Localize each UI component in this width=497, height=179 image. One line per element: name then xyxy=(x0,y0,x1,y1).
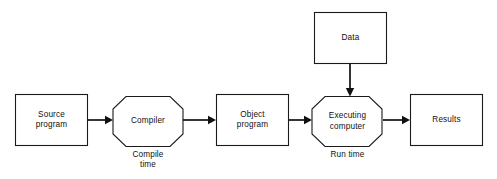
node-source-program xyxy=(16,95,88,146)
phase-label-compile-time: Compile time xyxy=(113,150,183,171)
edge-object-program-to-executing-computer xyxy=(289,116,312,124)
node-data xyxy=(315,13,387,64)
diagram-canvas xyxy=(0,0,497,179)
node-executing-computer xyxy=(312,97,382,147)
edge-source-to-compiler xyxy=(88,116,113,124)
node-results xyxy=(411,95,483,146)
edge-executing-computer-to-results xyxy=(383,116,410,124)
edge-data-to-executing-computer xyxy=(346,64,354,97)
node-object-program xyxy=(217,95,289,146)
phase-label-run-time: Run time xyxy=(312,150,383,160)
compilation-flowchart: Source program Compiler Object program D… xyxy=(0,0,497,179)
node-compiler xyxy=(113,97,183,147)
edge-compiler-to-object-program xyxy=(183,116,216,124)
